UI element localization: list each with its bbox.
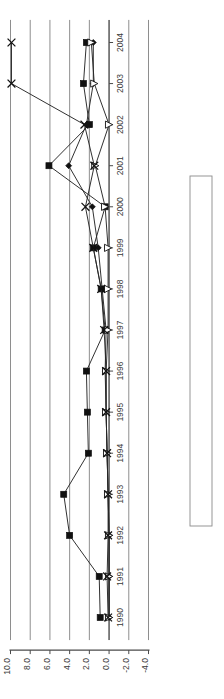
gridlines-group <box>11 20 149 640</box>
category-label-2001: 2001 <box>115 156 125 175</box>
category-label-1992: 1992 <box>115 526 125 545</box>
category-label-1993: 1993 <box>115 485 125 504</box>
category-label-1997: 1997 <box>115 320 125 339</box>
chart-figure: 10.08.06.04.02.00.0-2.0-4.01990199119921… <box>0 0 224 699</box>
category-label-2004: 2004 <box>115 33 125 52</box>
series-line-russian-federation <box>11 43 108 618</box>
series-brazil-2000-marker-diamond <box>89 204 95 210</box>
category-tick-labels: 1990199119921993199419951996199719981999… <box>115 33 125 627</box>
series-china-1993-marker-square <box>61 491 67 497</box>
series-china-2003-marker-square <box>80 81 86 87</box>
value-tick-labels: 10.08.06.04.02.00.0-2.0-4.0 <box>3 658 151 675</box>
category-label-1999: 1999 <box>115 238 125 257</box>
legend <box>190 176 212 526</box>
series-china-1995-marker-square <box>84 409 90 415</box>
value-tick-label-4p0: 4.0 <box>62 658 72 670</box>
series-china <box>46 40 108 621</box>
value-tick-label-0p0: 0.0 <box>101 658 111 670</box>
category-label-2002: 2002 <box>115 115 125 134</box>
series-russian-federation-2000-marker-x <box>82 203 90 211</box>
value-tick-label-neg2p0: -2.0 <box>121 658 131 673</box>
rotated-line-chart: 10.08.06.04.02.00.0-2.0-4.01990199119921… <box>0 0 224 699</box>
category-label-2000: 2000 <box>115 197 125 216</box>
series-china-1994-marker-square <box>85 450 91 456</box>
value-tick-label-10p0: 10.0 <box>3 658 13 675</box>
series-china-2001-marker-square <box>46 163 52 169</box>
category-label-1991: 1991 <box>115 567 125 586</box>
category-label-1998: 1998 <box>115 279 125 298</box>
category-label-2003: 2003 <box>115 74 125 93</box>
category-label-1996: 1996 <box>115 361 125 380</box>
series-india-2001-marker-triangle <box>92 162 99 169</box>
value-tick-label-6p0: 6.0 <box>42 658 52 670</box>
value-tick-label-neg4p0: -4.0 <box>141 658 151 673</box>
series-line-china <box>49 43 105 618</box>
value-tick-label-8p0: 8.0 <box>22 658 32 670</box>
series-china-1991-marker-square <box>96 573 102 579</box>
series-china-1990-marker-square <box>97 615 103 621</box>
series-russian-federation <box>8 39 112 622</box>
category-label-1990: 1990 <box>115 608 125 627</box>
legend-border <box>190 176 212 526</box>
value-tick-label-2p0: 2.0 <box>81 658 91 670</box>
series-china-1996-marker-square <box>83 368 89 374</box>
category-label-1994: 1994 <box>115 443 125 462</box>
series-brazil-2001-marker-diamond <box>66 163 72 169</box>
category-label-1995: 1995 <box>115 402 125 421</box>
series-china-1992-marker-square <box>67 532 73 538</box>
